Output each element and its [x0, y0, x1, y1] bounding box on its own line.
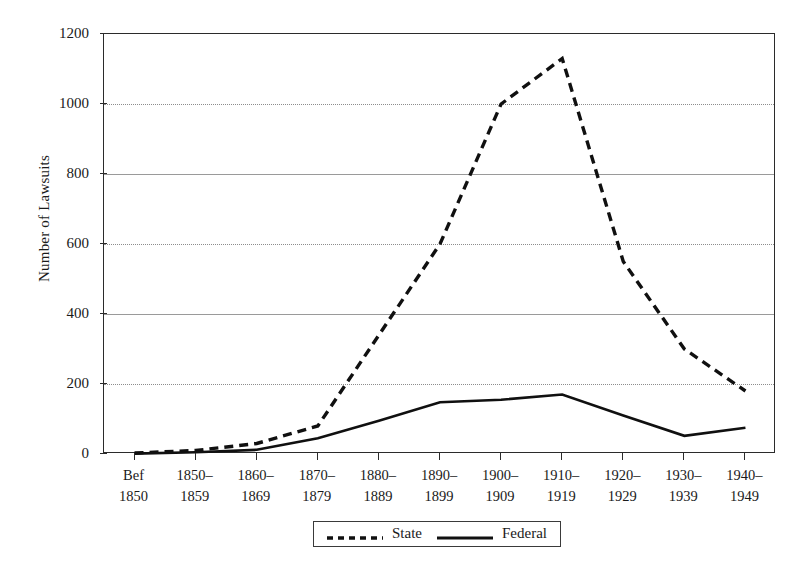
y-tick-label: 1200 — [15, 25, 89, 42]
legend-item-state[interactable]: State — [327, 525, 422, 542]
x-tick — [744, 453, 745, 460]
y-tick — [100, 453, 107, 454]
legend-label-state: State — [392, 525, 422, 542]
legend-item-federal[interactable]: Federal — [437, 525, 547, 542]
x-tick — [439, 453, 440, 460]
x-tick — [561, 453, 562, 460]
x-tick — [134, 453, 135, 460]
y-tick-label: 600 — [15, 235, 89, 252]
chart-figure: Number of Lawsuits 020040060080010001200… — [0, 0, 810, 568]
x-tick — [378, 453, 379, 460]
x-tick — [622, 453, 623, 460]
y-axis-title: Number of Lawsuits — [36, 109, 53, 329]
y-tick — [100, 33, 107, 34]
x-tick — [683, 453, 684, 460]
plot-area — [103, 33, 775, 453]
series-lines — [104, 34, 776, 454]
y-tick-label: 200 — [15, 375, 89, 392]
series-line-state — [135, 59, 746, 453]
y-tick-label: 400 — [15, 305, 89, 322]
x-tick — [317, 453, 318, 460]
x-tick-label-line: 1949 — [702, 486, 786, 507]
x-tick — [256, 453, 257, 460]
legend-swatch-federal — [437, 529, 493, 539]
legend-label-federal: Federal — [502, 525, 547, 542]
y-tick — [100, 173, 107, 174]
x-tick-label: 1940–1949 — [702, 465, 786, 507]
x-tick — [500, 453, 501, 460]
y-tick-label: 800 — [15, 165, 89, 182]
y-tick — [100, 383, 107, 384]
y-tick-label: 0 — [15, 445, 89, 462]
series-line-federal — [135, 395, 746, 454]
y-tick — [100, 103, 107, 104]
legend-swatch-state — [327, 529, 383, 539]
y-tick-label: 1000 — [15, 95, 89, 112]
y-tick — [100, 243, 107, 244]
y-tick — [100, 313, 107, 314]
x-tick — [195, 453, 196, 460]
legend: State Federal — [313, 521, 561, 547]
x-tick-label-line: 1940– — [702, 465, 786, 486]
